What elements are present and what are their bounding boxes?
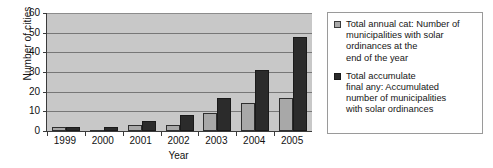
x-axis-tick-label: 1999 [46, 135, 84, 146]
bar-chart: Number of cities 0102030405060 199920002… [0, 0, 318, 168]
bar-dark [255, 70, 269, 131]
chart-figure: Number of cities 0102030405060 199920002… [0, 0, 493, 168]
legend-swatch-light-icon [334, 21, 341, 28]
chart-legend: Total annual cat: Number ofmunicipalitie… [327, 12, 483, 134]
bar-group [236, 13, 274, 131]
x-axis-tick-label: 2002 [160, 135, 198, 146]
x-axis-tick-label: 2005 [273, 135, 311, 146]
bar-dark [104, 127, 118, 131]
bar-group [274, 13, 312, 131]
bar-group [198, 13, 236, 131]
bar-dark [66, 127, 80, 131]
y-axis-tick-label: 0 [34, 126, 40, 136]
bar-light [241, 103, 255, 131]
y-axis-tick-label: 60 [29, 8, 40, 18]
y-axis-tick-label: 20 [29, 87, 40, 97]
bar-light [203, 113, 217, 131]
y-axis-tick-label: 40 [29, 47, 40, 57]
bar-group [161, 13, 199, 131]
y-axis-tick-label: 50 [29, 28, 40, 38]
y-axis-tick-label: 10 [29, 106, 40, 116]
bar-dark [142, 121, 156, 131]
legend-entry: Total annual cat: Number ofmunicipalitie… [334, 19, 477, 64]
plot-area [46, 13, 312, 132]
x-axis-tick-label: 2004 [235, 135, 273, 146]
bar-light [52, 127, 66, 131]
bar-group [47, 13, 85, 131]
y-axis-tick-labels: 0102030405060 [22, 7, 40, 137]
bar-dark [180, 115, 194, 131]
x-axis-title: Year [46, 150, 311, 161]
y-axis-tick-label: 30 [29, 67, 40, 77]
x-axis-tick-label: 2003 [197, 135, 235, 146]
x-axis-tick-labels: 1999200020012002200320042005 [46, 135, 311, 146]
bar-light [90, 130, 104, 131]
x-axis-tick-label: 2000 [84, 135, 122, 146]
bar-light [279, 98, 293, 131]
legend-entry: Total accumulatefinal any: Accumulatednu… [334, 71, 477, 116]
bar-group [123, 13, 161, 131]
bar-light [128, 125, 142, 131]
bar-light [166, 125, 180, 131]
bar-dark [217, 98, 231, 131]
x-axis-tick-label: 2001 [122, 135, 160, 146]
legend-label: Total annual cat: Number ofmunicipalitie… [346, 19, 460, 64]
bar-group [85, 13, 123, 131]
legend-swatch-dark-icon [334, 73, 341, 80]
legend-label: Total accumulatefinal any: Accumulatednu… [346, 71, 446, 116]
bar-series-container [47, 13, 312, 131]
bar-dark [293, 37, 307, 131]
